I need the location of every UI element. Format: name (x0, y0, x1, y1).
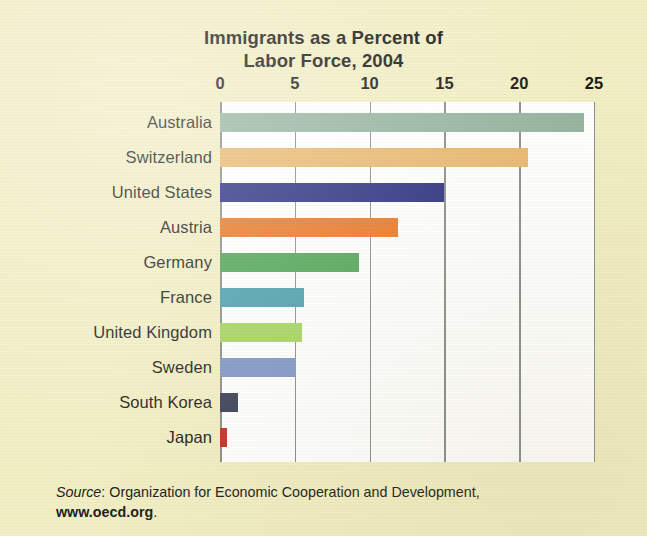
category-label-australia: Australia (147, 105, 212, 140)
category-label-united-states: United States (112, 175, 212, 210)
source-url: www.oecd.org (56, 504, 153, 520)
bar-row (220, 315, 594, 350)
bar-japan (220, 428, 227, 447)
category-axis-labels: AustraliaSwitzerlandUnited StatesAustria… (0, 102, 212, 462)
category-label-sweden: Sweden (152, 350, 212, 385)
x-tick-label-0: 0 (215, 74, 224, 93)
bar-south-korea (220, 393, 238, 412)
bar-united-states (220, 183, 444, 202)
bar-austria (220, 218, 398, 237)
bar-row (220, 385, 594, 420)
source-label: Source (56, 484, 101, 500)
x-tick-label-25: 25 (585, 74, 603, 93)
bar-series (220, 102, 594, 462)
chart-title-line-1: Immigrants as a Percent of (0, 26, 647, 49)
x-tick-label-5: 5 (290, 74, 299, 93)
chart-figure: Immigrants as a Percent of Labor Force, … (0, 0, 647, 536)
bar-germany (220, 253, 359, 272)
bar-row (220, 210, 594, 245)
bar-sweden (220, 358, 296, 377)
source-line-2: www.oecd.org. (56, 502, 616, 522)
bar-row (220, 105, 594, 140)
bar-row (220, 140, 594, 175)
chart-title-line-2: Labor Force, 2004 (0, 49, 647, 72)
x-tick-label-15: 15 (435, 74, 453, 93)
source-period: . (153, 504, 157, 520)
category-label-austria: Austria (160, 210, 212, 245)
category-label-united-kingdom: United Kingdom (93, 315, 212, 350)
bar-switzerland (220, 148, 528, 167)
category-label-switzerland: Switzerland (126, 140, 212, 175)
bar-row (220, 245, 594, 280)
bar-row (220, 420, 594, 455)
bar-france (220, 288, 304, 307)
bar-australia (220, 113, 584, 132)
category-label-germany: Germany (143, 245, 212, 280)
x-tick-label-10: 10 (360, 74, 378, 93)
bar-row (220, 175, 594, 210)
source-note: Source: Organization for Economic Cooper… (56, 482, 616, 522)
category-label-france: France (160, 280, 212, 315)
source-line-1: Source: Organization for Economic Cooper… (56, 482, 616, 502)
x-tick-label-20: 20 (510, 74, 528, 93)
category-label-japan: Japan (167, 420, 212, 455)
bar-row (220, 280, 594, 315)
x-axis-tick-labels: 0510152025 (0, 74, 647, 98)
source-organization: Organization for Economic Cooperation an… (109, 484, 479, 500)
plot-area (220, 102, 595, 462)
bar-united-kingdom (220, 323, 302, 342)
category-label-south-korea: South Korea (119, 385, 212, 420)
chart-title: Immigrants as a Percent of Labor Force, … (0, 26, 647, 72)
bar-row (220, 350, 594, 385)
